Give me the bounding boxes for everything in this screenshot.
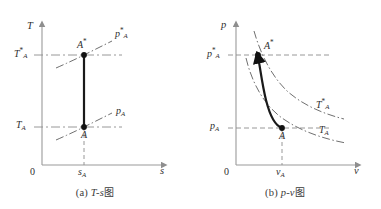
x-axis-label: s bbox=[160, 166, 164, 177]
caption-body-a: T-s bbox=[91, 187, 104, 198]
pv-diagram-canvas bbox=[190, 0, 380, 185]
state-point-label-A: A bbox=[279, 131, 285, 141]
y-axis-label: T bbox=[27, 21, 33, 32]
y-tick-label-T-A: TA bbox=[16, 120, 26, 132]
figure-root: T s 0 T*A TA sA A* A p*A bbox=[0, 0, 381, 209]
curve-label-T-star-A: T*A bbox=[316, 99, 329, 111]
x-tick-label-s-A: sA bbox=[78, 167, 86, 179]
panel-ts-diagram: T s 0 T*A TA sA A* A p*A bbox=[0, 0, 190, 209]
y-tick-label-p-star-A: p*A bbox=[207, 48, 220, 60]
y-axis-label: p bbox=[221, 20, 226, 31]
x-tick-label-v-A: vA bbox=[276, 167, 285, 179]
caption-index-b: (b) bbox=[265, 187, 278, 198]
state-point-label-Astar: A* bbox=[77, 39, 87, 50]
caption-cjk-a: 图 bbox=[104, 187, 114, 198]
panel-b-caption: (b) p-v图 bbox=[190, 184, 380, 199]
curve-label-p-A: pA bbox=[116, 106, 125, 118]
process-curve-A-to-Astar bbox=[258, 57, 282, 128]
state-point-label-Astar: A* bbox=[264, 40, 274, 51]
panel-a-caption: (a) T-s图 bbox=[0, 184, 190, 199]
origin-label: 0 bbox=[224, 167, 229, 177]
curve-label-T-A: TA bbox=[319, 125, 329, 137]
origin-label: 0 bbox=[30, 167, 35, 177]
caption-index-a: (a) bbox=[76, 187, 88, 198]
panel-pv-diagram: p v 0 p*A pA vA A* A T*A bbox=[190, 0, 380, 209]
caption-body-b: p-v bbox=[281, 187, 295, 198]
x-axis-label: v bbox=[354, 166, 359, 177]
state-point-Astar-marker bbox=[255, 52, 261, 58]
state-point-Astar-marker bbox=[81, 52, 87, 58]
y-tick-label-T-star-A: T*A bbox=[14, 48, 27, 60]
state-point-label-A: A bbox=[81, 130, 87, 140]
caption-cjk-b: 图 bbox=[295, 187, 305, 198]
curve-label-p-star-A: p*A bbox=[115, 28, 128, 40]
y-tick-label-p-A: pA bbox=[210, 121, 219, 133]
